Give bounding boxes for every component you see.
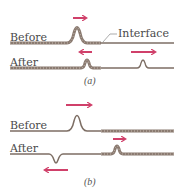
panel-a: Before Interface After (a)	[9, 18, 174, 87]
panel-b: Before After (b)	[9, 105, 174, 188]
interface-label: Interface	[118, 27, 169, 40]
light-rope-after-a	[101, 60, 174, 68]
interface-leader-line	[103, 34, 117, 42]
wave-reflection-diagram: Before Interface After (a) Before After	[0, 0, 184, 196]
light-rope-after-b	[10, 154, 101, 163]
caption-a: (a)	[84, 75, 96, 87]
before-label-b: Before	[10, 119, 47, 132]
heavy-rope-after-b	[101, 146, 174, 154]
after-label-b: After	[9, 142, 39, 155]
caption-b: (b)	[84, 176, 96, 188]
